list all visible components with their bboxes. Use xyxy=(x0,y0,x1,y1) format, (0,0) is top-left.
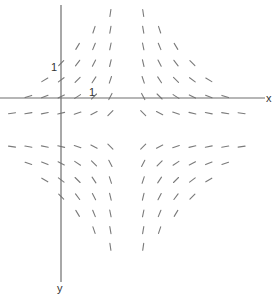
slope-segment xyxy=(142,193,144,200)
slope-segment xyxy=(143,10,144,17)
slope-segment xyxy=(93,26,95,33)
slope-field-plot xyxy=(0,0,273,296)
slope-segment xyxy=(190,178,196,182)
slope-segment xyxy=(142,160,145,166)
slope-segment xyxy=(238,146,245,147)
slope-segment xyxy=(110,210,111,217)
slope-segment xyxy=(25,95,32,97)
slope-segment xyxy=(75,161,81,165)
slope-segment xyxy=(158,60,161,66)
slope-segment xyxy=(190,78,196,82)
slope-segment xyxy=(76,43,80,49)
slope-segment xyxy=(190,61,195,66)
slope-segment xyxy=(189,162,195,165)
slope-segment xyxy=(109,77,111,84)
slope-segment xyxy=(174,178,179,183)
slope-segment xyxy=(158,43,161,49)
slope-segment xyxy=(142,93,145,99)
slope-segment xyxy=(222,146,229,147)
slope-segment xyxy=(92,60,95,66)
slope-segment xyxy=(157,161,162,166)
slope-segment xyxy=(174,77,179,82)
slope-segment xyxy=(92,177,96,183)
slope-segment xyxy=(141,144,146,149)
slope-segment xyxy=(109,177,111,184)
slope-segment xyxy=(159,227,161,234)
y-tick-label-1: 1 xyxy=(51,62,57,73)
slope-segment xyxy=(206,162,212,165)
slope-segment xyxy=(42,178,48,182)
slope-segment xyxy=(158,210,161,216)
slope-segment xyxy=(41,146,48,147)
slope-segment xyxy=(238,113,245,114)
slope-segment xyxy=(142,60,144,67)
slope-segment xyxy=(9,113,16,114)
slope-segment xyxy=(143,227,144,234)
slope-segment xyxy=(76,194,80,200)
slope-segment xyxy=(92,161,97,166)
slope-segment xyxy=(109,93,112,99)
slope-segment xyxy=(222,162,229,164)
slope-segment xyxy=(25,113,32,114)
slope-segment xyxy=(174,43,178,49)
slope-segment xyxy=(143,43,144,50)
slope-segment xyxy=(222,95,229,97)
slope-segment xyxy=(91,112,97,115)
y-axis-label: y xyxy=(57,283,63,294)
slope-segment xyxy=(109,160,112,166)
slope-segment xyxy=(108,111,113,116)
slope-segment xyxy=(76,210,80,216)
slope-segment xyxy=(205,113,212,114)
slope-segment xyxy=(41,113,48,114)
slope-segment xyxy=(75,178,80,183)
slope-segment xyxy=(110,26,111,33)
slope-segment xyxy=(93,210,96,216)
slope-segment xyxy=(93,227,95,234)
slope-segment xyxy=(93,43,96,49)
slope-segment xyxy=(189,146,196,148)
slope-segment xyxy=(42,78,48,82)
slope-segment xyxy=(174,60,178,66)
slope-segment xyxy=(110,193,112,200)
slope-segment xyxy=(143,26,144,33)
slope-segment xyxy=(174,210,178,216)
slope-segment xyxy=(173,146,180,148)
slope-segment xyxy=(110,227,111,234)
slope-segment xyxy=(141,111,146,116)
slope-segment xyxy=(158,177,162,183)
slope-segments xyxy=(9,10,246,251)
slope-segment xyxy=(222,113,229,114)
slope-segment xyxy=(205,146,212,147)
slope-segment xyxy=(143,210,144,217)
slope-segment xyxy=(206,178,212,182)
slope-segment xyxy=(173,161,179,165)
slope-segment xyxy=(157,145,163,148)
x-axis-label: x xyxy=(266,93,272,104)
slope-segment xyxy=(75,77,80,82)
slope-segment xyxy=(157,112,163,115)
slope-segment xyxy=(92,194,95,200)
slope-segment xyxy=(25,146,32,147)
slope-segment xyxy=(159,26,161,33)
slope-segment xyxy=(76,60,80,66)
slope-segment xyxy=(74,146,81,148)
slope-segment xyxy=(143,243,144,250)
slope-segment xyxy=(189,112,196,114)
slope-segment xyxy=(158,194,161,200)
slope-segment xyxy=(174,194,178,200)
slope-segment xyxy=(108,144,113,149)
slope-segment xyxy=(9,146,16,147)
slope-segment xyxy=(110,60,112,67)
slope-segment xyxy=(42,162,48,165)
slope-segment xyxy=(142,77,144,84)
slope-segment xyxy=(142,177,144,184)
slope-segment xyxy=(173,112,180,114)
slope-segment xyxy=(158,77,162,83)
slope-segment xyxy=(91,145,97,148)
slope-segment xyxy=(206,78,212,82)
slope-segment xyxy=(190,194,195,199)
x-tick-label-1: 1 xyxy=(89,87,95,98)
slope-segment xyxy=(110,10,111,17)
slope-segment xyxy=(110,243,111,250)
slope-segment xyxy=(110,43,111,50)
